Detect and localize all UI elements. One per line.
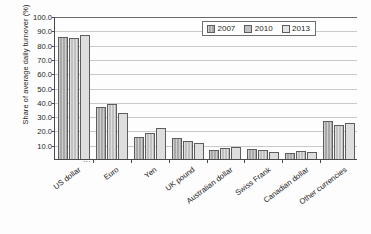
y-axis-break-icon: ... xyxy=(83,155,91,164)
y-axis-tick-label: 50.0 xyxy=(8,84,52,93)
x-axis-tick-mark xyxy=(207,159,208,163)
bar-group xyxy=(169,17,207,159)
legend-entry: 2010 xyxy=(244,24,272,33)
x-axis-tick-mark xyxy=(93,159,94,163)
bar xyxy=(323,121,333,159)
x-axis-label: Yen xyxy=(143,165,159,180)
bar xyxy=(80,35,90,159)
y-axis-tick-label: 10.0 xyxy=(8,141,52,150)
bar xyxy=(172,138,182,159)
y-axis-tick-label: 90.0 xyxy=(8,27,52,36)
legend-entry: 2013 xyxy=(282,24,310,33)
bar xyxy=(334,125,344,159)
bar xyxy=(285,153,295,159)
bar xyxy=(220,148,230,159)
bar-group xyxy=(244,17,282,159)
legend-label: 2013 xyxy=(292,24,310,33)
bar xyxy=(247,149,257,159)
bar xyxy=(96,107,106,159)
bar xyxy=(231,147,241,159)
y-axis-tick-label: 60.0 xyxy=(8,70,52,79)
legend-swatch-icon xyxy=(207,25,215,33)
bar xyxy=(69,38,79,159)
x-axis-tick-mark xyxy=(244,159,245,163)
y-axis-tick-label: 40.0 xyxy=(8,98,52,107)
y-axis-tick-label: 80.0 xyxy=(8,41,52,50)
legend-entry: 2007 xyxy=(207,24,235,33)
x-axis-tick-mark xyxy=(320,159,321,163)
bar xyxy=(183,141,193,159)
legend-label: 2007 xyxy=(218,24,236,33)
legend-swatch-icon xyxy=(282,25,290,33)
bar xyxy=(296,151,306,159)
x-axis-tick-mark xyxy=(131,159,132,163)
bar xyxy=(118,113,128,159)
bar-group xyxy=(93,17,131,159)
x-axis-tick-mark xyxy=(169,159,170,163)
y-axis-tick-label: 100.0 xyxy=(8,13,52,22)
legend-swatch-icon xyxy=(244,25,252,33)
legend-label: 2010 xyxy=(255,24,273,33)
bar xyxy=(58,37,68,159)
bar xyxy=(145,133,155,159)
x-axis-tick-mark xyxy=(282,159,283,163)
bar-group xyxy=(131,17,169,159)
chart-legend: 200720102013 xyxy=(202,21,316,36)
bar-group xyxy=(282,17,320,159)
bar xyxy=(209,150,219,159)
bar-group xyxy=(207,17,245,159)
y-axis-tick-label: 20.0 xyxy=(8,127,52,136)
bar xyxy=(307,152,317,159)
plot-area: ... xyxy=(54,17,357,160)
bar xyxy=(345,123,355,159)
bar-chart: Share of average daily turnover (%) 100.… xyxy=(0,0,371,234)
bar xyxy=(134,137,144,159)
bar xyxy=(258,150,268,159)
y-axis-tick-label: 70.0 xyxy=(8,55,52,64)
bar xyxy=(269,152,279,159)
bar-group xyxy=(55,17,93,159)
x-axis-label: US dollar xyxy=(52,165,83,191)
bar xyxy=(156,128,166,159)
x-axis-label: Euro xyxy=(102,165,120,182)
bar xyxy=(194,143,204,159)
x-axis-label: UK pound xyxy=(164,165,197,193)
y-axis-tick-label: 30.0 xyxy=(8,113,52,122)
bar-group xyxy=(320,17,358,159)
bar xyxy=(107,104,117,159)
